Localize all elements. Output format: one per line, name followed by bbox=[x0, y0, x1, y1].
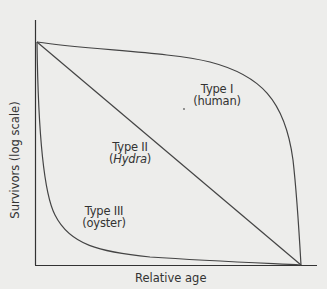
y-axis-label: Survivors (log scale) bbox=[8, 101, 22, 218]
survivorship-chart bbox=[0, 0, 327, 289]
type1-label: Type I (human) bbox=[192, 83, 242, 107]
type2-label: Type II (Hydra) bbox=[104, 141, 156, 165]
type2-curve bbox=[37, 42, 301, 265]
type2-organism: (Hydra) bbox=[104, 153, 156, 165]
speck bbox=[183, 108, 185, 110]
type3-label: Type III (oyster) bbox=[78, 205, 130, 229]
type1-organism: (human) bbox=[192, 95, 242, 107]
type3-organism: (oyster) bbox=[78, 217, 130, 229]
x-axis-label: Relative age bbox=[135, 271, 206, 285]
